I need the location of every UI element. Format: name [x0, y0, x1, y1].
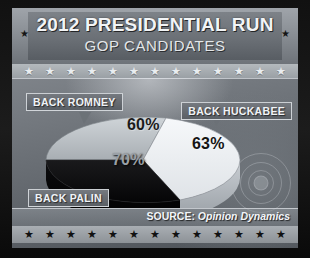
- callout-arrow-romney: [76, 112, 96, 124]
- source-prefix: SOURCE:: [146, 210, 194, 222]
- star-icon: ★: [213, 66, 223, 77]
- divider-under-banner: [12, 78, 298, 79]
- label-back-palin[interactable]: BACK PALIN: [28, 189, 109, 207]
- star-icon: ★: [234, 229, 244, 240]
- star-icon: ★: [129, 66, 139, 77]
- divider-above-source: [12, 208, 298, 209]
- star-icon: ★: [150, 66, 160, 77]
- star-strip-top: ★★★★★★★★★★★★★: [12, 64, 298, 78]
- star-icon: ★: [171, 229, 181, 240]
- source-credit: SOURCE: Opinion Dynamics: [146, 210, 290, 222]
- star-icon: ★: [66, 66, 76, 77]
- star-icon: ★: [255, 229, 265, 240]
- star-icon: ★: [213, 229, 223, 240]
- page-title: 2012 PRESIDENTIAL RUN: [12, 14, 298, 36]
- value-palin: 70%: [112, 151, 145, 169]
- label-back-huckabee[interactable]: BACK HUCKABEE: [181, 102, 292, 120]
- infographic-panel: ★ ★ 2012 PRESIDENTIAL RUN GOP CANDIDATES…: [12, 8, 298, 248]
- screenshot-root: ★ ★ 2012 PRESIDENTIAL RUN GOP CANDIDATES…: [0, 0, 310, 258]
- star-icon: ★: [150, 229, 160, 240]
- star-strip-bottom: ★★★★★★★★★★★★★: [12, 226, 298, 243]
- label-back-romney[interactable]: BACK ROMNEY: [26, 93, 123, 111]
- star-icon: ★: [24, 229, 34, 240]
- star-icon: ★: [108, 66, 118, 77]
- star-icon: ★: [24, 66, 34, 77]
- value-huckabee: 63%: [192, 135, 225, 153]
- star-icon: ★: [171, 66, 181, 77]
- star-icon: ★: [192, 66, 202, 77]
- star-icon: ★: [45, 66, 55, 77]
- star-icon: ★: [255, 66, 265, 77]
- page-subtitle: GOP CANDIDATES: [12, 37, 298, 54]
- value-romney: 60%: [127, 116, 160, 134]
- star-icon: ★: [45, 229, 55, 240]
- star-icon: ★: [276, 229, 286, 240]
- star-icon: ★: [87, 229, 97, 240]
- title-banner: ★ ★ 2012 PRESIDENTIAL RUN GOP CANDIDATES: [12, 8, 298, 64]
- star-icon: ★: [192, 229, 202, 240]
- source-name: Opinion Dynamics: [198, 210, 290, 222]
- star-icon: ★: [234, 66, 244, 77]
- star-icon: ★: [108, 229, 118, 240]
- star-icon: ★: [129, 229, 139, 240]
- star-icon: ★: [66, 229, 76, 240]
- star-icon: ★: [276, 66, 286, 77]
- star-icon: ★: [87, 66, 97, 77]
